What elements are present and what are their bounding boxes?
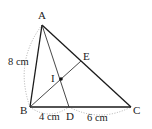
label-e: E: [83, 50, 90, 62]
measure-bd: 4 cm: [39, 111, 60, 122]
label-a: A: [38, 9, 46, 21]
label-c: C: [133, 104, 140, 116]
label-b: B: [20, 104, 27, 116]
point-i-dot: [59, 77, 63, 81]
measure-ab: 8 cm: [8, 56, 29, 67]
triangle-diagram: A B C D E I 8 cm 4 cm 6 cm: [0, 0, 152, 129]
side-ab: [30, 25, 42, 107]
segment-be: [30, 61, 81, 107]
label-d: D: [66, 110, 74, 122]
label-i: I: [51, 72, 55, 84]
measure-dc: 6 cm: [87, 112, 108, 123]
